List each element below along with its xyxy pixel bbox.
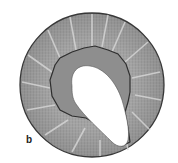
panel-label: b [26,134,32,145]
